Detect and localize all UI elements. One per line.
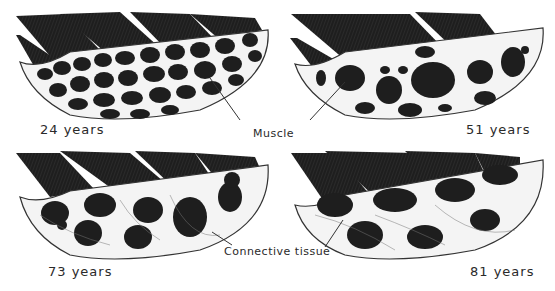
panel-24-years [0, 0, 280, 135]
age-label-73: 73 years [48, 264, 112, 279]
muscle-annotation: Muscle [253, 127, 294, 140]
age-label-51: 51 years [466, 122, 530, 137]
age-label-81: 81 years [470, 264, 534, 279]
panel-73-years [0, 145, 280, 291]
muscle-cross-section-24 [0, 0, 280, 135]
age-label-24: 24 years [40, 122, 104, 137]
muscle-aging-illustration: 24 years 51 years Muscle [0, 0, 555, 291]
connective-tissue-annotation: Connective tissue [224, 245, 330, 258]
muscle-cross-section-51 [275, 0, 555, 135]
muscle-cross-section-73 [0, 145, 280, 291]
panel-51-years [275, 0, 555, 135]
